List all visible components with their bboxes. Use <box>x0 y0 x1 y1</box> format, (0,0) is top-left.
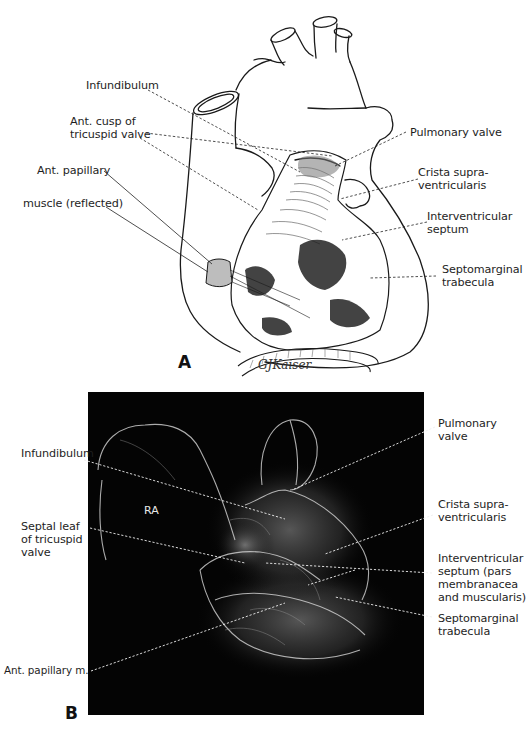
label-line: Septomarginal <box>438 612 518 625</box>
anatomical-figure: Infundibulum Ant. cusp of tricuspid valv… <box>0 0 528 731</box>
label-line: septum (pars <box>438 565 526 578</box>
label-b-ant-papillary-m: Ant. papillary m. <box>4 664 88 677</box>
label-line: Crista supra- <box>438 498 508 511</box>
label-line: valve <box>438 430 497 443</box>
panel-b-letter: B <box>65 703 78 723</box>
label-line: and muscularis) <box>438 591 526 604</box>
label-line: trabecula <box>438 625 518 638</box>
label-b-interventricular-septum: Interventricular septum (pars membranace… <box>438 552 526 604</box>
label-b-infundibulum: Infundibulum <box>21 447 94 460</box>
label-line: Pulmonary <box>438 417 497 430</box>
label-line: ventricularis <box>438 511 508 524</box>
label-b-septomarginal-trabecula: Septomarginal trabecula <box>438 612 518 638</box>
label-line: Septal leaf <box>21 520 83 533</box>
label-b-pulmonary-valve: Pulmonary valve <box>438 417 497 443</box>
label-line: Interventricular <box>438 552 526 565</box>
label-b-ra: RA <box>144 504 159 517</box>
label-b-crista-supraventricularis: Crista supra- ventricularis <box>438 498 508 524</box>
label-line: of tricuspid <box>21 533 83 546</box>
label-line: valve <box>21 546 83 559</box>
label-line: membranacea <box>438 578 526 591</box>
label-b-septal-leaf-tricuspid: Septal leaf of tricuspid valve <box>21 520 83 559</box>
